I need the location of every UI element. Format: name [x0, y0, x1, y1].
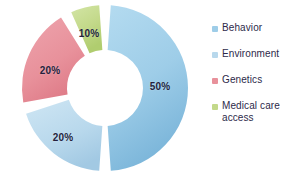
- legend-item-genetics[interactable]: Genetics: [212, 74, 300, 86]
- slice-label-medical-care-access: 10%: [79, 28, 100, 39]
- legend-item-label: Medical care access: [222, 100, 300, 124]
- donut-chart: 50% 20% 20% 10% Behavior Environment Gen…: [0, 0, 300, 171]
- legend-item-label: Genetics: [222, 74, 262, 86]
- legend-item-medical-care-access[interactable]: Medical care access: [212, 100, 300, 124]
- legend-swatch-icon: [212, 78, 218, 84]
- donut-slice-behavior[interactable]: [108, 5, 188, 171]
- legend-item-label: Behavior: [222, 22, 262, 34]
- legend-swatch-icon: [212, 104, 218, 110]
- slice-label-behavior: 50%: [150, 81, 171, 92]
- donut-slice-genetics[interactable]: [22, 18, 85, 103]
- donut-svg: [0, 0, 205, 171]
- legend-swatch-icon: [212, 52, 218, 58]
- chart-legend: Behavior Environment Genetics Medical ca…: [212, 22, 300, 124]
- legend-item-label: Environment: [222, 48, 279, 60]
- legend-item-behavior[interactable]: Behavior: [212, 22, 300, 34]
- slice-label-environment: 20%: [53, 132, 74, 143]
- legend-item-environment[interactable]: Environment: [212, 48, 300, 60]
- legend-swatch-icon: [212, 26, 218, 32]
- donut-graphic: 50% 20% 20% 10%: [0, 0, 205, 171]
- slice-label-genetics: 20%: [40, 65, 61, 76]
